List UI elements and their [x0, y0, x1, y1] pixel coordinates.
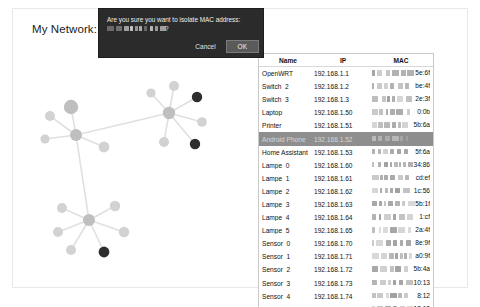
- mac-tail: cd:ef: [416, 175, 430, 181]
- cell-mac: 5b:1f: [372, 201, 430, 208]
- mac-tail: 5b:1f: [415, 201, 430, 207]
- mac-tail: 2a:4f: [415, 227, 430, 233]
- cell-mac: 5f:6a: [372, 149, 430, 156]
- cell-ip: 192.168.1.3: [314, 96, 372, 103]
- cell-name: Sensor_0: [262, 240, 314, 247]
- dialog-body: Are you sure you want to isolate MAC add…: [99, 9, 263, 33]
- page-title: My Network:: [32, 23, 97, 35]
- cell-ip: 192.168.1.62: [314, 188, 372, 195]
- table-row[interactable]: Sensor_3192.168.1.7310:13: [259, 277, 433, 290]
- table-row[interactable]: Switch_3192.168.1.32e:3f: [259, 93, 433, 106]
- table-body: OpenWRT192.168.1.15e:6fSwitch_2192.168.1…: [259, 67, 433, 307]
- cell-mac: be:4f: [372, 83, 430, 90]
- cell-mac: 1c:56: [372, 188, 430, 195]
- table-row[interactable]: Switch_2192.168.1.2be:4f: [259, 80, 433, 93]
- table-row[interactable]: Lampe_4192.168.1.641:cf: [259, 211, 433, 224]
- cell-name: Lampe_4: [262, 214, 314, 221]
- cell-ip: 192.168.1.2: [314, 83, 372, 90]
- mac-tail: 1c:56: [414, 188, 430, 194]
- cell-mac: 5b:6a: [372, 122, 430, 129]
- cell-ip: 192.168.1.65: [314, 227, 372, 234]
- graph-node[interactable]: [83, 214, 95, 226]
- network-graph[interactable]: [14, 60, 256, 285]
- mac-redacted: [372, 136, 430, 142]
- table-row[interactable]: Lampe_2192.168.1.621c:56: [259, 185, 433, 198]
- graph-node[interactable]: [99, 247, 110, 258]
- graph-node[interactable]: [99, 142, 110, 153]
- cell-ip: 192.168.1.74: [314, 293, 372, 300]
- mac-tail: 5e:6f: [415, 70, 430, 76]
- table-row[interactable]: Lampe_5192.168.1.652a:4f: [259, 224, 433, 237]
- table-row[interactable]: Sensor_5192.168.1.7518:13: [259, 303, 433, 307]
- graph-node[interactable]: [192, 92, 202, 102]
- graph-node[interactable]: [163, 107, 175, 119]
- cell-name: Sensor_2: [262, 266, 314, 273]
- cell-ip: 192.168.1.51: [314, 122, 372, 129]
- cell-mac: cd:ef: [372, 175, 430, 182]
- cell-name: Sensor_1: [262, 253, 314, 260]
- cell-mac: 8e:9f: [372, 240, 430, 247]
- cell-name: Lampe_3: [262, 201, 314, 208]
- cancel-button[interactable]: Cancel: [191, 41, 219, 52]
- cell-mac: 2e:3f: [372, 96, 430, 103]
- table-row[interactable]: Home Assistant192.168.1.535f:6a: [259, 146, 433, 159]
- mac-tail: 8:12: [417, 293, 430, 299]
- dialog-message-line1: Are you sure you want to isolate MAC add…: [107, 16, 255, 25]
- isolate-confirm-dialog[interactable]: Are you sure you want to isolate MAC add…: [98, 8, 264, 58]
- table-row[interactable]: Lampe_1192.168.1.61cd:ef: [259, 172, 433, 185]
- column-header-ip: IP: [314, 57, 372, 64]
- mac-tail: 5b:6a: [413, 122, 430, 128]
- cell-name: Android Phone: [262, 136, 314, 143]
- graph-node[interactable]: [197, 117, 207, 127]
- graph-node[interactable]: [66, 245, 76, 255]
- dialog-button-row: Cancel OK: [191, 40, 259, 53]
- table-row[interactable]: Sensor_0192.168.1.708e:9f: [259, 237, 433, 250]
- cell-name: Lampe_1: [262, 175, 314, 182]
- graph-node[interactable]: [159, 137, 169, 147]
- cell-ip: 192.168.1.70: [314, 240, 372, 247]
- graph-node[interactable]: [110, 201, 120, 211]
- graph-node[interactable]: [64, 100, 78, 114]
- graph-node[interactable]: [53, 227, 63, 237]
- graph-node[interactable]: [169, 81, 179, 91]
- cell-name: Switch_3: [262, 96, 314, 103]
- cell-ip: 192.168.1.63: [314, 201, 372, 208]
- cell-mac: 2a:4f: [372, 227, 430, 234]
- graph-edge: [76, 135, 89, 220]
- graph-node[interactable]: [45, 111, 55, 121]
- cell-name: Lampe_5: [262, 227, 314, 234]
- table-row[interactable]: Sensor_4192.168.1.748:12: [259, 290, 433, 303]
- column-header-name: Name: [262, 57, 314, 64]
- table-row[interactable]: Laptop192.168.1.500:0b: [259, 106, 433, 119]
- mac-tail: 5b:4a: [413, 266, 430, 272]
- graph-node[interactable]: [190, 139, 200, 149]
- cell-name: Printer: [262, 122, 314, 129]
- graph-node[interactable]: [119, 227, 129, 237]
- cell-ip: 192.168.1.64: [314, 214, 372, 221]
- cell-ip: 192.168.1.72: [314, 266, 372, 273]
- cell-ip: 192.168.1.50: [314, 109, 372, 116]
- table-row[interactable]: Sensor_2192.168.1.725b:4a: [259, 263, 433, 276]
- graph-node[interactable]: [146, 88, 155, 97]
- network-graph-canvas[interactable]: [14, 60, 256, 285]
- cell-mac: 34:86: [372, 162, 430, 169]
- mac-tail: 1:cf: [419, 214, 430, 220]
- cell-name: Lampe_0: [262, 162, 314, 169]
- table-row[interactable]: Lampe_3192.168.1.635b:1f: [259, 198, 433, 211]
- ok-button[interactable]: OK: [226, 40, 259, 53]
- table-row[interactable]: Sensor_1192.168.1.71a0:9f: [259, 250, 433, 263]
- cell-ip: 192.168.1.53: [314, 149, 372, 156]
- dialog-mac-redacted: [107, 26, 165, 32]
- mac-tail: 5f:6a: [415, 149, 430, 155]
- device-table[interactable]: Name IP MAC OpenWRT192.168.1.15e:6fSwitc…: [258, 53, 434, 307]
- table-row[interactable]: Printer192.168.1.515b:6a: [259, 119, 433, 132]
- graph-node[interactable]: [57, 203, 67, 213]
- cell-name: OpenWRT: [262, 70, 314, 77]
- table-row[interactable]: Android Phone192.168.1.52: [259, 132, 433, 145]
- graph-node[interactable]: [70, 129, 82, 141]
- table-row[interactable]: OpenWRT192.168.1.15e:6f: [259, 67, 433, 80]
- cell-name: Sensor_4: [262, 293, 314, 300]
- table-row[interactable]: Lampe_0192.168.1.6034:86: [259, 159, 433, 172]
- column-header-mac: MAC: [372, 57, 430, 64]
- graph-node[interactable]: [40, 134, 49, 143]
